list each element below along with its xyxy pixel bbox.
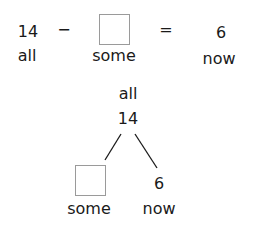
bond-unknown-box[interactable] xyxy=(75,165,106,196)
bond-left-label: some xyxy=(67,201,111,217)
bond-right-value: 6 xyxy=(154,176,164,192)
bond-connector-lines xyxy=(0,0,253,225)
bond-right-label: now xyxy=(142,201,175,217)
